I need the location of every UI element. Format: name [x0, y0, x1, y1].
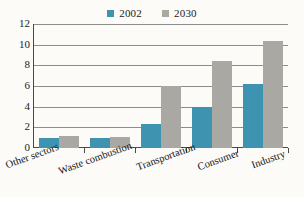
legend-label-2030: 2030 [174, 8, 197, 19]
chart-legend: 2002 2030 [0, 5, 304, 21]
x-tick-label-industry: Industry [250, 148, 287, 170]
bar-group-transportation [136, 24, 187, 148]
x-tick-label-consumer: Consumer [196, 147, 240, 172]
bar-2002-consumer [192, 107, 212, 148]
bar-2002-transportation [141, 124, 161, 148]
legend-entry-2002: 2002 [107, 8, 142, 19]
legend-swatch-2030 [162, 10, 169, 17]
bar-group-consumer [186, 24, 237, 148]
bar-2030-other-sectors [59, 136, 79, 148]
y-tick-label-8: 8 [4, 59, 30, 70]
bar-2030-consumer [212, 61, 232, 148]
y-tick-label-6: 6 [4, 80, 30, 91]
x-axis-labels: Other sectors Waste combustion Transport… [0, 148, 304, 197]
bar-2030-industry [263, 41, 283, 148]
legend-swatch-2002 [107, 10, 114, 17]
bar-group-industry [237, 24, 288, 148]
y-tick-label-4: 4 [4, 101, 30, 112]
bar-2002-industry [243, 84, 263, 148]
y-tick-label-2: 2 [4, 121, 30, 132]
legend-label-2002: 2002 [119, 8, 142, 19]
y-tick-label-12: 12 [4, 18, 30, 29]
bar-groups [34, 24, 288, 148]
y-axis-labels: 12 10 8 6 4 2 0 [0, 24, 30, 148]
bar-group-other-sectors [34, 24, 85, 148]
legend-entry-2030: 2030 [162, 8, 197, 19]
bar-2030-transportation [161, 86, 181, 148]
y-tick-label-10: 10 [4, 39, 30, 50]
bar-chart: 2002 2030 12 10 8 6 4 2 0 [0, 0, 304, 197]
bar-group-waste-combustion [85, 24, 136, 148]
